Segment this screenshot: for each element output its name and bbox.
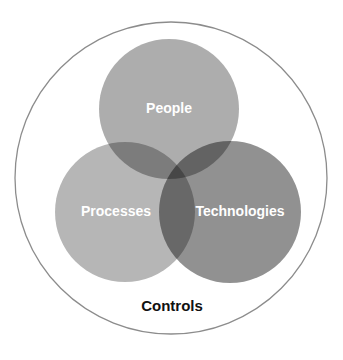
technologies-label: Technologies [195,203,284,219]
controls-label: Controls [141,297,203,314]
people-label: People [146,100,192,116]
venn-diagram: People Processes Technologies Controls [0,0,343,360]
processes-label: Processes [81,203,151,219]
